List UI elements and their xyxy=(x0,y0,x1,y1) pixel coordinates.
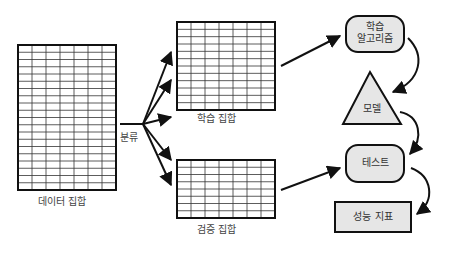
training-set-label: 학습 집합 xyxy=(197,110,236,125)
metrics-label: 성능 지표 xyxy=(335,211,411,223)
validation-set-label: 검증 집합 xyxy=(197,221,236,236)
model-node xyxy=(343,72,401,124)
model-label: 모델 xyxy=(343,103,401,115)
test-label: 테스트 xyxy=(346,157,404,169)
algorithm-label-line2: 알고리즘 xyxy=(346,33,404,45)
algorithm-label-line1: 학습 xyxy=(346,21,404,33)
dataset-label: 데이터 집합 xyxy=(38,193,86,208)
training-set-table xyxy=(177,22,275,110)
dataset-table xyxy=(18,45,116,190)
split-arrows xyxy=(120,52,171,185)
split-label: 분류 xyxy=(120,129,138,144)
algorithm-label: 학습 알고리즘 xyxy=(346,21,404,45)
arrow-training-to-algorithm xyxy=(281,36,340,66)
arrow-validation-to-test xyxy=(281,168,340,190)
arrow-model-to-test xyxy=(400,112,418,154)
validation-set-table xyxy=(177,160,275,218)
arrow-test-to-metrics xyxy=(411,168,429,214)
